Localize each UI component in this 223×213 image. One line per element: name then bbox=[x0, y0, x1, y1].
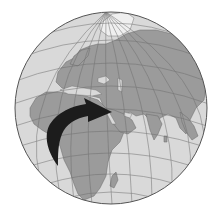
globe-svg bbox=[0, 0, 223, 213]
globe-map: Migration arrow from central Africa to t… bbox=[0, 0, 223, 213]
sri-lanka bbox=[164, 136, 167, 142]
